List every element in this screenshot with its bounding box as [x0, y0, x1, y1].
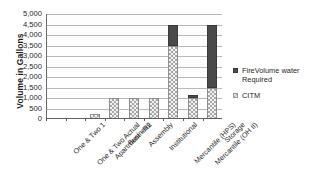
chart-legend: FireVolume water RequiredCITM [233, 66, 333, 107]
square-dark-icon [233, 68, 238, 73]
y-axis-tick-label: 0 [8, 115, 42, 123]
bar-stack[interactable] [168, 25, 178, 120]
y-axis-tick-label: 5,000 [8, 10, 42, 18]
bar-column[interactable] [66, 14, 86, 119]
x-axis-category-labels: One & Two 1One & Two ActualApartment - R… [46, 119, 222, 195]
chart-container: Volume in Gallons 5,0004,5004,0003,5003,… [0, 0, 336, 196]
y-axis-tick-label: 500 [8, 105, 42, 113]
bar-segment-citm[interactable] [168, 46, 178, 120]
bar-column[interactable] [183, 14, 203, 119]
square-checkered-icon [233, 93, 238, 98]
bar-column[interactable] [144, 14, 164, 119]
bar-segment-fire-volume[interactable] [207, 25, 217, 88]
y-axis-tick-label: 3,000 [8, 52, 42, 60]
bar-column[interactable] [124, 14, 144, 119]
legend-item-label: FireVolume water Required [242, 66, 328, 84]
plot-area [46, 14, 222, 119]
bar-series-group [46, 14, 222, 119]
bar-stack[interactable] [129, 98, 139, 119]
legend-item[interactable]: FireVolume water Required [233, 66, 333, 84]
bar-segment-citm[interactable] [109, 98, 119, 119]
bar-column[interactable] [163, 14, 183, 119]
x-axis-category-label: One & Two 1 [72, 121, 107, 156]
y-axis-title: Volume in Gallons [15, 11, 25, 131]
bar-stack[interactable] [188, 95, 198, 119]
bar-segment-citm[interactable] [188, 98, 198, 119]
legend-item-label: CITM [242, 91, 260, 100]
y-axis-tick-label: 1,500 [8, 84, 42, 92]
bar-stack[interactable] [149, 98, 159, 119]
y-axis-tick-label: 4,500 [8, 21, 42, 29]
bar-segment-citm[interactable] [129, 98, 139, 119]
y-axis-tick-label: 2,000 [8, 73, 42, 81]
y-axis-tick-label: 1,000 [8, 94, 42, 102]
y-axis-tick-label: 4,000 [8, 31, 42, 39]
y-axis-tick-label: 3,500 [8, 42, 42, 50]
bar-column[interactable] [85, 14, 105, 119]
bar-segment-citm[interactable] [207, 88, 217, 120]
bar-column[interactable] [203, 14, 223, 119]
bar-stack[interactable] [109, 98, 119, 119]
y-axis-tick-label: 2,500 [8, 63, 42, 71]
bar-column[interactable] [105, 14, 125, 119]
bar-segment-citm[interactable] [149, 98, 159, 119]
bar-column[interactable] [46, 14, 66, 119]
bar-stack[interactable] [207, 25, 217, 120]
y-axis-line [46, 14, 47, 119]
legend-item[interactable]: CITM [233, 91, 333, 100]
bar-segment-fire-volume[interactable] [168, 25, 178, 46]
